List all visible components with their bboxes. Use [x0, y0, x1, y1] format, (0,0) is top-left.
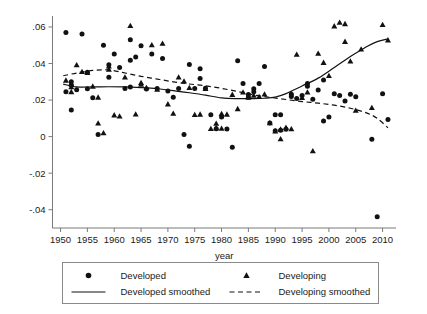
data-point-developing	[337, 19, 343, 24]
x-tick-label: 1990	[265, 234, 286, 245]
data-point-developing	[149, 42, 155, 47]
legend-marker-developing	[243, 272, 249, 278]
data-point-developed	[63, 30, 68, 35]
x-tick-label: 1965	[130, 234, 151, 245]
data-point-developed	[343, 98, 348, 103]
data-point-developing	[63, 77, 69, 82]
data-point-developed	[208, 112, 213, 117]
data-point-developed	[192, 86, 197, 91]
data-point-developing	[74, 62, 80, 67]
x-tick-label: 1955	[77, 234, 98, 245]
data-point-developing	[165, 101, 171, 106]
data-point-developed	[139, 43, 144, 48]
data-point-developing	[251, 93, 257, 98]
data-point-developed	[241, 81, 246, 86]
data-point-developed	[380, 91, 385, 96]
x-tick-label: 1980	[211, 234, 232, 245]
data-point-developed	[69, 108, 74, 113]
x-tick-label: 1985	[238, 234, 259, 245]
data-point-developing	[315, 50, 321, 55]
data-point-developed	[348, 92, 353, 97]
data-point-developing	[192, 112, 198, 117]
data-point-developing	[331, 23, 337, 28]
data-point-developing	[170, 110, 176, 115]
data-point-developed	[128, 58, 133, 63]
data-point-developing	[294, 51, 300, 56]
x-tick-label: 2000	[318, 234, 339, 245]
data-point-developed	[316, 88, 321, 93]
data-point-developed	[149, 52, 154, 57]
x-tick-label: 1975	[184, 234, 205, 245]
data-point-developed	[128, 37, 133, 42]
data-point-developing	[369, 105, 375, 110]
data-point-developed	[278, 112, 283, 117]
data-point-developed	[176, 86, 181, 91]
data-point-developed	[90, 95, 95, 100]
y-tick-label: -.02	[29, 168, 45, 179]
axis-frame	[53, 16, 397, 228]
data-point-developing	[219, 125, 225, 130]
data-point-developing	[304, 89, 310, 94]
data-point-developed	[310, 97, 315, 102]
data-point-developing	[229, 92, 235, 97]
data-point-developing	[122, 74, 128, 79]
data-point-developing	[224, 111, 230, 116]
data-point-developing	[278, 136, 284, 141]
data-point-developed	[182, 132, 187, 137]
y-tick-label: .06	[32, 21, 45, 32]
y-tick-label: -.04	[29, 204, 45, 215]
data-point-developed	[198, 66, 203, 71]
data-point-developing	[160, 40, 166, 45]
y-tick-label: 0	[40, 131, 45, 142]
data-point-developing	[100, 130, 106, 135]
data-point-developing	[208, 126, 214, 131]
data-point-developing	[213, 120, 219, 125]
legend-label-developed-smoothed: Developed smoothed	[121, 286, 211, 297]
x-tick-label: 1995	[292, 234, 313, 245]
data-point-developed	[80, 31, 85, 36]
data-point-developed	[112, 52, 117, 57]
data-point-developed	[187, 62, 192, 67]
data-point-developed	[257, 81, 262, 86]
data-point-developed	[63, 89, 68, 94]
data-point-developed	[337, 93, 342, 98]
data-point-developing	[342, 39, 348, 44]
y-tick-label: .02	[32, 94, 45, 105]
data-point-developing	[262, 91, 268, 96]
data-point-developed	[321, 119, 326, 124]
data-point-developed	[117, 65, 122, 70]
data-point-developing	[219, 111, 225, 116]
data-point-developed	[262, 64, 267, 69]
data-point-developed	[74, 87, 79, 92]
scatter-chart-figure: -.04-.020.02.04.061950195519601965197019…	[0, 0, 427, 314]
x-tick-label: 1960	[104, 234, 125, 245]
data-point-developing	[90, 83, 96, 88]
data-point-developing	[68, 89, 74, 94]
data-point-developed	[106, 75, 111, 80]
data-point-developed	[273, 112, 278, 117]
data-point-developing	[176, 74, 182, 79]
data-point-developing	[186, 85, 192, 90]
data-point-developing	[95, 120, 101, 125]
data-point-developed	[160, 56, 165, 61]
data-point-developed	[187, 144, 192, 149]
data-point-developed	[332, 91, 337, 96]
x-axis-title: year	[215, 250, 233, 261]
data-point-developed	[235, 58, 240, 63]
data-point-developed	[375, 214, 380, 219]
legend-marker-developed	[86, 273, 92, 279]
data-point-developed	[224, 126, 229, 131]
x-tick-label: 2005	[345, 234, 366, 245]
data-point-developing	[111, 112, 117, 117]
data-point-developing	[342, 21, 348, 26]
data-point-developing	[95, 94, 101, 99]
x-tick-label: 2010	[372, 234, 393, 245]
legend-label-developing: Developing	[279, 270, 327, 281]
data-point-developed	[321, 77, 326, 82]
data-point-developed	[353, 94, 358, 99]
data-point-developed	[133, 55, 138, 60]
data-point-developed	[294, 96, 299, 101]
data-point-developing	[310, 148, 316, 153]
x-tick-label: 1950	[50, 234, 71, 245]
x-tick-label: 1970	[157, 234, 178, 245]
